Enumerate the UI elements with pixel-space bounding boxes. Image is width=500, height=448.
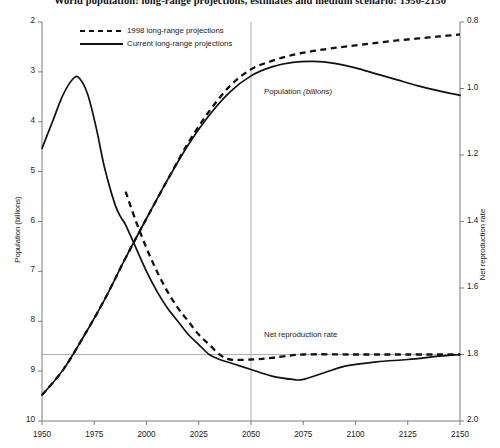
y-tick-right-1p6: 1.6 [467, 282, 497, 291]
chart-figure: World population: long-range projections… [0, 0, 500, 448]
y-tick-left-6: 6 [9, 216, 35, 225]
y-tick-left-5: 5 [9, 166, 35, 175]
x-tick-2100: 2100 [336, 430, 376, 439]
x-tick-2000: 2000 [127, 430, 167, 439]
y-tick-right-0p8: 0.8 [467, 16, 497, 25]
y-tick-right-1p2: 1.2 [467, 149, 497, 158]
x-tick-2075: 2075 [283, 430, 323, 439]
legend-label-1998-projections: 1998 long-range projections [127, 26, 224, 35]
y-tick-right-1p8: 1.8 [467, 349, 497, 358]
y-tick-right-1p4: 1.4 [467, 216, 497, 225]
chart-legend: 1998 long-range projections Current long… [78, 24, 232, 50]
x-tick-2050: 2050 [231, 430, 271, 439]
y-tick-left-10: 10 [9, 415, 35, 424]
annotation-population-main: Population [264, 87, 301, 96]
x-tick-2125: 2125 [388, 430, 428, 439]
y-tick-left-8: 8 [9, 315, 35, 324]
x-tick-2150: 2150 [440, 430, 480, 439]
annotation-population: Population (billions) [264, 87, 332, 96]
y-tick-left-3: 3 [9, 66, 35, 75]
dashed-line-icon [78, 26, 124, 36]
legend-label-current-projections: Current long-range projections [127, 39, 232, 48]
y-tick-right-1: 1.0 [467, 83, 497, 92]
x-tick-1950: 1950 [22, 430, 62, 439]
x-tick-1975: 1975 [74, 430, 114, 439]
annotation-nrr: Net reproduction rate [264, 330, 337, 339]
solid-line-icon [78, 39, 124, 49]
y-tick-right-2: 2.0 [467, 415, 497, 424]
annotation-population-unit: (billions) [303, 87, 332, 96]
y-tick-left-2: 2 [9, 16, 35, 25]
y-tick-left-9: 9 [9, 365, 35, 374]
legend-item-current-projections: Current long-range projections [78, 37, 232, 50]
x-tick-2025: 2025 [179, 430, 219, 439]
y-tick-left-4: 4 [9, 116, 35, 125]
plot-area [0, 0, 500, 448]
y-tick-left-7: 7 [9, 265, 35, 274]
legend-item-1998-projections: 1998 long-range projections [78, 24, 232, 37]
